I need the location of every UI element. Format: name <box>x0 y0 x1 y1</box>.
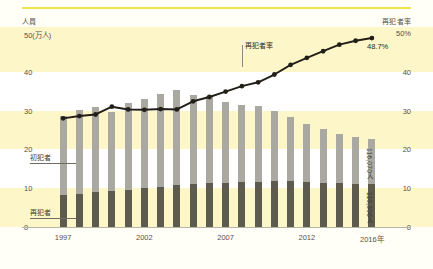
rate-point-2002 <box>142 107 147 112</box>
rate-line-series <box>55 33 380 227</box>
legend-first-offender-rule <box>30 163 76 164</box>
y-tick-10: 10 <box>24 184 32 193</box>
rate-point-2007 <box>223 89 228 94</box>
rate-point-2000 <box>109 104 114 109</box>
x-tick-2016: 2016年 <box>360 233 384 244</box>
rate-annotation-leader <box>242 45 243 67</box>
plot-area <box>55 33 380 227</box>
right-axis-title: 再犯者率 <box>382 16 411 26</box>
rate-point-2016 <box>369 36 374 41</box>
rate-annotation-label: 再犯者率 <box>245 40 273 50</box>
rate-point-2011 <box>288 62 293 67</box>
rate-point-2001 <box>126 107 131 112</box>
rate-point-2008 <box>239 84 244 89</box>
x-tick-2002: 2002 <box>136 233 153 242</box>
legend-first-offender: 初犯者 <box>30 152 76 164</box>
top-rule <box>22 7 411 9</box>
rate-point-2003 <box>158 107 163 112</box>
y-tick-40: 40 <box>24 68 32 77</box>
x-tick-1997: 1997 <box>55 233 72 242</box>
y2-tick-20: 20 <box>403 145 411 154</box>
rate-point-2015 <box>353 38 358 43</box>
repeat-end-label: 110,306人 <box>364 192 374 224</box>
rate-point-2012 <box>304 55 309 60</box>
rate-point-2006 <box>207 95 212 100</box>
rate-point-2010 <box>272 72 277 77</box>
x-tick-2012: 2012 <box>299 233 316 242</box>
left-axis-title: 人員 <box>22 16 36 26</box>
rate-point-1998 <box>77 114 82 119</box>
y-tick-50: 50(万人) <box>24 29 51 40</box>
legend-repeat-offender: 再犯者 <box>30 207 76 219</box>
legend-repeat-offender-rule <box>30 218 76 219</box>
rate-point-1999 <box>93 112 98 117</box>
y2-tick-40: 40 <box>403 68 411 77</box>
y-tick-30: 30 <box>24 107 32 116</box>
rate-point-2009 <box>256 80 261 85</box>
x-axis-line <box>22 227 411 228</box>
legend-repeat-offender-label: 再犯者 <box>30 207 76 218</box>
y2-tick-30: 30 <box>403 107 411 116</box>
x-tick-2007: 2007 <box>217 233 234 242</box>
y2-tick-50: 50% <box>396 29 411 38</box>
rate-point-2004 <box>174 107 179 112</box>
recidivism-chart: 人員 再犯者率 01020304050(万人) 01020304050% 199… <box>0 0 433 269</box>
legend-first-offender-label: 初犯者 <box>30 152 76 163</box>
y2-tick-10: 10 <box>403 184 411 193</box>
total-end-label: 116,070人 <box>364 148 374 180</box>
rate-point-2014 <box>337 42 342 47</box>
rate-line <box>63 38 372 118</box>
rate-point-2013 <box>321 49 326 54</box>
rate-point-2005 <box>191 99 196 104</box>
rate-point-1997 <box>61 116 66 121</box>
end-rate-value-label: 48.7% <box>367 42 388 51</box>
